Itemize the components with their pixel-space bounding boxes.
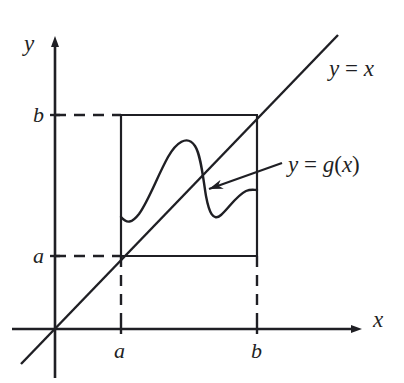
y-tick-label-b: b xyxy=(33,104,44,126)
g-label-open-paren: ( xyxy=(334,152,342,177)
g-label-arg: x xyxy=(342,152,352,177)
identity-label-y: y xyxy=(329,56,339,81)
x-tick-label-b: b xyxy=(251,340,262,362)
axis-group xyxy=(12,46,352,378)
callout-arrow-to-curve xyxy=(209,163,282,189)
unit-square-box xyxy=(121,115,258,256)
g-label-g: g xyxy=(323,152,335,177)
identity-line-y-equals-x xyxy=(21,35,338,364)
identity-label-x: x xyxy=(364,56,374,81)
y-tick-label-a: a xyxy=(33,245,44,267)
x-tick-label-a: a xyxy=(114,340,125,362)
y-axis-label: y xyxy=(24,32,34,55)
x-axis-label: x xyxy=(373,308,383,331)
curve-g-of-x xyxy=(121,140,257,221)
g-label-y: y xyxy=(288,152,298,177)
g-label-equals: = xyxy=(304,152,317,177)
identity-line-label: y = x xyxy=(329,57,374,80)
g-label-close-paren: ) xyxy=(352,152,360,177)
identity-label-equals: = xyxy=(345,56,358,81)
function-curve-label: y = g(x) xyxy=(288,153,360,176)
figure-canvas: y x b a a b y = x y = g(x) xyxy=(0,0,404,383)
